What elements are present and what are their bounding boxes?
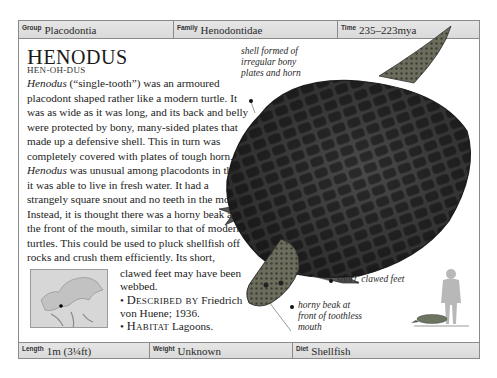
species-name: Henodus xyxy=(27,164,67,176)
time-field: Time 235–223mya xyxy=(338,21,479,38)
description-text: Henodus (“single-tooth”) was an armoured… xyxy=(27,76,249,265)
family-field: Family Henodontidae xyxy=(174,21,338,38)
time-label: Time xyxy=(341,24,356,31)
habitat: • Habitat Lagoons. xyxy=(120,320,255,333)
species-name: Henodus xyxy=(27,77,67,89)
callout-feet-dot xyxy=(329,279,333,283)
length-value: 1m (3¼ft) xyxy=(47,345,92,357)
group-field: Group Placodontia xyxy=(19,21,174,38)
length-label: Length xyxy=(22,345,44,352)
diet-label: Diet xyxy=(296,345,308,352)
weight-field: Weight Unknown xyxy=(150,343,293,358)
length-field: Length 1m (3¼ft) xyxy=(19,343,150,358)
weight-value: Unknown xyxy=(178,345,221,357)
described-by: • Described by Friedrich von Huene; 1936… xyxy=(120,294,255,321)
family-label: Family xyxy=(177,24,198,31)
pronunciation: HEN-OH-DUS xyxy=(27,65,86,75)
weight-label: Weight xyxy=(153,345,175,352)
callout-shell: shell formed of irregular bony plates an… xyxy=(241,46,311,79)
location-dot xyxy=(59,304,63,308)
facts-text: clawed feet may have been webbed. • Desc… xyxy=(120,267,255,333)
group-label: Group xyxy=(22,24,42,31)
time-value: 235–223mya xyxy=(359,24,416,36)
human-silhouette xyxy=(441,269,461,324)
callout-feet: short, clawed feet xyxy=(337,274,407,285)
diet-field: Diet Shellfish xyxy=(293,343,479,358)
shell xyxy=(227,80,471,277)
group-value: Placodontia xyxy=(45,24,97,36)
callout-beak-dot xyxy=(290,305,294,309)
fact-card: Group Placodontia Family Henodontidae Ti… xyxy=(18,20,480,359)
header-bar: Group Placodontia Family Henodontidae Ti… xyxy=(19,21,479,39)
footer-bar: Length 1m (3¼ft) Weight Unknown Diet She… xyxy=(19,342,479,358)
callout-beak: horny beak at front of toothless mouth xyxy=(298,300,368,333)
location-map xyxy=(30,269,108,328)
callout-shell-dot xyxy=(249,99,253,103)
family-value: Henodontidae xyxy=(201,24,263,36)
diet-value: Shellfish xyxy=(311,345,350,357)
scale-henodus xyxy=(417,315,447,324)
